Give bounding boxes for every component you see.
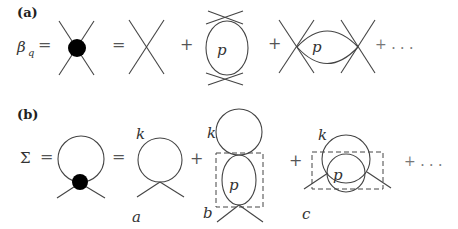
plus-sign: + xyxy=(190,149,203,168)
sigma-symbol: Σ xyxy=(20,149,31,167)
tadpole-diagram-a: k a xyxy=(132,125,184,226)
momentum-p-label: p xyxy=(312,38,322,56)
feynman-diagram-figure: (a) β q = = + p + p + . . . (b) Σ xyxy=(0,0,458,229)
horizontal-bubble-diagram: p xyxy=(279,20,375,73)
caption-b: b xyxy=(203,204,213,222)
caption-c: c xyxy=(302,205,311,223)
momentum-p-label: p xyxy=(333,166,343,184)
momentum-k-label: k xyxy=(136,125,145,143)
blob-vertex-icon xyxy=(72,174,88,190)
equals-sign: = xyxy=(112,35,125,54)
momentum-p-label: p xyxy=(217,41,227,59)
stacked-loops-diagram-b: k p b xyxy=(203,109,263,222)
vertical-bubble-diagram: p xyxy=(206,11,248,85)
svg-text:q: q xyxy=(28,47,34,58)
equals-sign: = xyxy=(112,147,125,166)
blob-vertex-icon xyxy=(68,39,86,57)
ellipsis: + . . . xyxy=(404,153,442,169)
panel-a-label: (a) xyxy=(17,5,38,20)
four-point-vertex-blob xyxy=(59,21,94,75)
tadpole-blob-diagram xyxy=(57,136,105,198)
plus-sign: + xyxy=(180,35,193,54)
caption-a: a xyxy=(132,208,141,226)
nested-loops-diagram-c: k p c xyxy=(302,126,391,223)
ellipsis: + . . . xyxy=(375,36,413,52)
equals-sign: = xyxy=(38,35,51,54)
momentum-p-label: p xyxy=(229,176,239,194)
plus-sign: + xyxy=(289,151,302,170)
momentum-k-label: k xyxy=(207,124,216,142)
panel-b-label: (b) xyxy=(17,107,38,122)
beta-q-symbol: β q xyxy=(16,38,34,58)
bare-vertex xyxy=(129,20,164,74)
momentum-k-label: k xyxy=(318,126,327,144)
svg-text:β: β xyxy=(16,38,26,56)
plus-sign: + xyxy=(268,34,281,53)
equals-sign: = xyxy=(40,147,53,166)
